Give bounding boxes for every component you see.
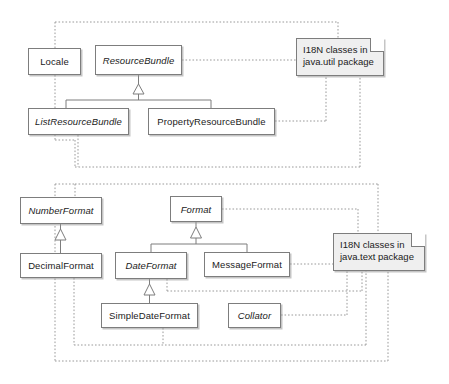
class-box-propertyresourcebundle[interactable]: PropertyResourceBundle — [148, 108, 275, 135]
class-label-listresourcebundle: ListResourceBundle — [35, 116, 122, 127]
class-label-resourcebundle: ResourceBundle — [103, 55, 175, 66]
class-label-numberformat: NumberFormat — [28, 205, 93, 216]
class-box-dateformat[interactable]: DateFormat — [115, 252, 187, 279]
note-java-text[interactable]: I18N classes in java.text package — [333, 233, 425, 271]
note-fold-icon — [370, 38, 384, 52]
note-text-java-text: I18N classes in java.text package — [340, 239, 418, 262]
note-java-util[interactable]: I18N classes in java.util package — [296, 38, 384, 76]
class-box-collator[interactable]: Collator — [228, 303, 281, 328]
class-label-collator: Collator — [238, 310, 272, 321]
class-label-locale: Locale — [40, 56, 69, 67]
class-label-decimalformat: DecimalFormat — [28, 260, 94, 271]
class-label-format: Format — [181, 204, 212, 215]
class-box-numberformat[interactable]: NumberFormat — [20, 197, 102, 224]
note-fold-icon — [411, 233, 425, 247]
class-label-dateformat: DateFormat — [125, 260, 176, 271]
class-box-resourcebundle[interactable]: ResourceBundle — [95, 45, 182, 75]
class-box-format[interactable]: Format — [170, 196, 222, 222]
class-box-listresourcebundle[interactable]: ListResourceBundle — [28, 108, 129, 135]
class-label-simpledateformat: SimpleDateFormat — [109, 310, 190, 321]
class-box-messageformat[interactable]: MessageFormat — [204, 252, 290, 277]
class-box-locale[interactable]: Locale — [28, 48, 81, 75]
class-label-propertyresourcebundle: PropertyResourceBundle — [157, 116, 265, 127]
class-box-decimalformat[interactable]: DecimalFormat — [20, 253, 102, 278]
note-text-java-util: I18N classes in java.util package — [303, 44, 377, 67]
class-label-messageformat: MessageFormat — [212, 259, 282, 270]
class-box-simpledateformat[interactable]: SimpleDateFormat — [101, 303, 198, 328]
uml-class-diagram: Locale ResourceBundle ListResourceBundle… — [0, 0, 449, 384]
